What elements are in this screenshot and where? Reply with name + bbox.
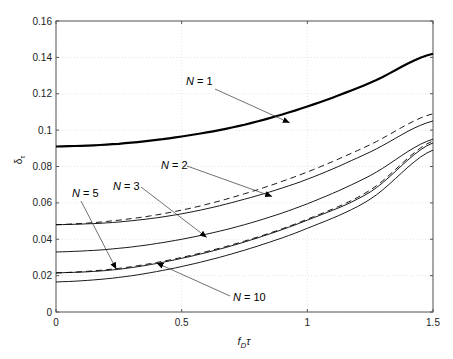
y-tick-label: 0 (46, 307, 52, 318)
series-line (56, 141, 433, 273)
x-tick-label: 1 (305, 317, 311, 328)
tick-labels: 00.511.500.020.040.060.080.10.120.140.16 (33, 16, 441, 329)
x-tick-label: 1.5 (426, 317, 440, 328)
y-tick-label: 0.1 (38, 125, 52, 136)
series-line (56, 143, 433, 273)
series-line (56, 114, 433, 225)
annotation-n2: N = 2 (161, 159, 188, 171)
annotation-n10: N = 10 (233, 291, 266, 303)
series-line (56, 121, 433, 225)
annotation-arrow (141, 187, 207, 237)
y-tick-label: 0.06 (33, 197, 53, 208)
x-axis-label: fDτ (238, 335, 252, 350)
grid-lines (56, 21, 433, 312)
annotation-arrow (81, 201, 116, 269)
axes (56, 21, 433, 312)
line-chart: 00.511.500.020.040.060.080.10.120.140.16… (0, 0, 453, 359)
y-tick-label: 0.08 (33, 161, 53, 172)
annotation-n1: N = 1 (186, 75, 213, 87)
annotation-n3: N = 3 (113, 180, 140, 192)
y-tick-label: 0.14 (33, 52, 53, 63)
annotation-arrow (187, 166, 272, 197)
y-tick-label: 0.16 (33, 16, 53, 27)
y-tick-label: 0.04 (33, 234, 53, 245)
x-tick-label: 0 (53, 317, 59, 328)
series-line (56, 54, 433, 147)
y-axis-label: δτ (13, 156, 26, 165)
annotation-arrow (157, 263, 230, 296)
y-tick-label: 0.02 (33, 270, 53, 281)
data-series (56, 54, 433, 282)
x-tick-label: 0.5 (175, 317, 189, 328)
y-tick-label: 0.12 (33, 88, 53, 99)
series-line (56, 139, 433, 252)
annotation-n5: N = 5 (72, 187, 99, 199)
